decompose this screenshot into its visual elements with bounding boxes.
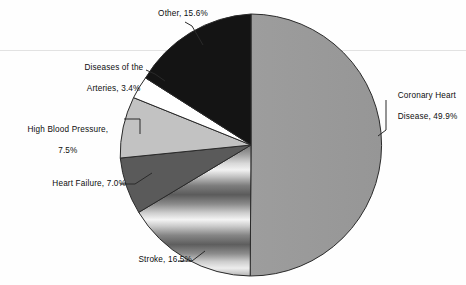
slice-label-arteries-line2: Arteries, 3.4% bbox=[87, 84, 141, 93]
slice-label-stroke: Stroke, 16.5% bbox=[94, 255, 192, 266]
slice-label-arteries-line1: Diseases of the bbox=[84, 63, 143, 72]
slice-label-diseases-of-the-arteries: Diseases of the Arteries, 3.4% bbox=[58, 52, 160, 105]
pie-slice-coronary-heart-disease[interactable] bbox=[250, 14, 381, 276]
slice-label-high-blood-pressure: High Blood Pressure, 7.5% bbox=[4, 114, 122, 167]
slice-label-coronary-line2: Disease, 49.9% bbox=[398, 112, 458, 121]
slice-label-heart-failure: Heart Failure, 7.0% bbox=[14, 179, 126, 190]
slice-label-other: Other, 15.6% bbox=[137, 9, 229, 20]
slice-label-coronary-line1: Coronary Heart bbox=[398, 91, 456, 100]
slice-label-coronary-heart-disease: Coronary Heart Disease, 49.9% bbox=[388, 80, 466, 133]
slice-label-hbp-line1: High Blood Pressure, bbox=[28, 125, 109, 134]
slice-label-hbp-line2: 7.5% bbox=[58, 146, 77, 155]
pie-chart-page: Other, 15.6% Diseases of the Arteries, 3… bbox=[0, 0, 466, 285]
